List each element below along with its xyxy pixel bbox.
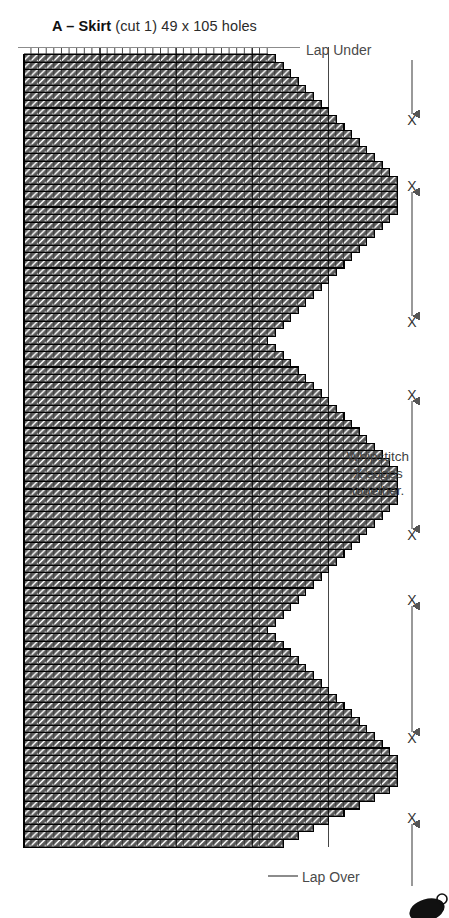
whipstitch-line-1: Whipstitch	[330, 448, 426, 465]
corner-ornament-icon	[403, 884, 449, 918]
lap-over-label: Lap Over	[302, 869, 360, 885]
whipstitch-x-marker: X	[407, 178, 417, 194]
whipstitch-x-marker: X	[407, 314, 417, 330]
whipstitch-line-3: together.	[330, 482, 426, 499]
whipstitch-note: Whipstitch X edges together.	[330, 448, 426, 499]
whipstitch-x-marker: X	[407, 527, 417, 543]
whipstitch-line-2: X edges	[330, 465, 426, 482]
whipstitch-x-marker: X	[407, 387, 417, 403]
lap-under-label: Lap Under	[306, 42, 371, 58]
whipstitch-x-marker: X	[407, 810, 417, 826]
whipstitch-x-marker: X	[407, 112, 417, 128]
whipstitch-x-marker: X	[407, 592, 417, 608]
whipstitch-x-marker: X	[407, 730, 417, 746]
